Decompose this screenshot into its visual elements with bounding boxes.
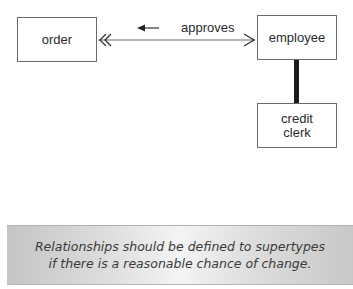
entity-employee[interactable]: employee — [257, 15, 337, 60]
subtype-connector — [294, 60, 299, 103]
entity-label: employee — [269, 31, 325, 45]
banner-line: Relationships should be defined to super… — [35, 238, 325, 255]
entity-credit-clerk[interactable]: credit clerk — [257, 103, 337, 148]
relationship-label: approves — [181, 20, 234, 35]
guideline-banner: Relationships should be defined to super… — [7, 225, 353, 285]
left-arrow-icon — [137, 25, 159, 32]
entity-label-line: clerk — [283, 126, 310, 140]
banner-line: if there is a reasonable chance of chang… — [49, 255, 312, 272]
entity-label: order — [42, 33, 72, 47]
entity-label-line: credit — [281, 112, 313, 126]
entity-order[interactable]: order — [17, 17, 97, 62]
